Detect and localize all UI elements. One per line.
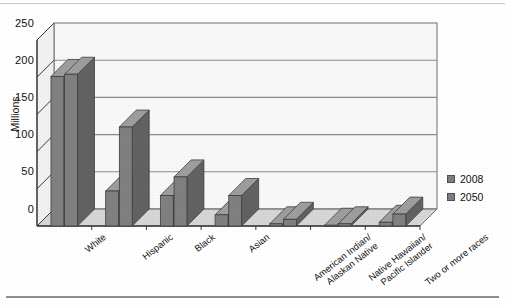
y-tick-50: 50 bbox=[0, 165, 34, 177]
y-tick-200: 200 bbox=[0, 54, 34, 66]
legend-label-2008: 2008 bbox=[460, 173, 483, 185]
bar-hispanic-2050 bbox=[119, 110, 149, 226]
y-tick-250: 250 bbox=[0, 17, 34, 29]
legend-item-2008[interactable]: 2008 bbox=[447, 170, 503, 188]
legend-swatch-2008 bbox=[447, 175, 455, 183]
legend-item-2050[interactable]: 2050 bbox=[447, 188, 503, 206]
chart-legend: 2008 2050 bbox=[447, 170, 503, 206]
legend-swatch-2050 bbox=[447, 193, 455, 201]
y-axis-title: Millions bbox=[9, 79, 21, 149]
chart-canvas bbox=[0, 0, 505, 307]
figure-bar-chart-population-by-race: 250 200 150 100 50 0 Millions WhiteHispa… bbox=[0, 0, 505, 307]
y-tick-0: 0 bbox=[0, 203, 34, 215]
bar-white-2050 bbox=[65, 57, 95, 226]
legend-label-2050: 2050 bbox=[460, 191, 483, 203]
